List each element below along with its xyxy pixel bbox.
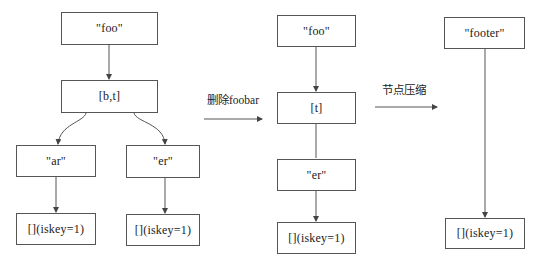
edge-bt-er <box>134 113 165 144</box>
node-bt: [b,t] <box>61 80 158 113</box>
node-leaf-ar: [](iskey=1) <box>16 213 96 245</box>
node-leaf-after-compress: [](iskey=1) <box>445 218 525 249</box>
transition-label-delete: 删除foobar <box>207 91 259 107</box>
trie-diagram: "foo" [b,t] "ar" "er" [](iskey=1) [](isk… <box>0 0 535 259</box>
node-ar: "ar" <box>16 145 96 177</box>
node-foo-after-delete: "foo" <box>277 15 356 47</box>
node-t: [t] <box>277 92 356 124</box>
node-leaf-er: [](iskey=1) <box>126 214 200 246</box>
transition-label-compress: 节点压缩 <box>382 81 426 97</box>
node-er-after-delete: "er" <box>277 159 356 191</box>
node-footer: "footer" <box>444 17 525 49</box>
node-foo: "foo" <box>61 12 158 45</box>
node-er: "er" <box>126 145 200 178</box>
node-leaf-after-delete: [](iskey=1) <box>277 222 356 254</box>
edge-bt-ar <box>58 113 86 144</box>
